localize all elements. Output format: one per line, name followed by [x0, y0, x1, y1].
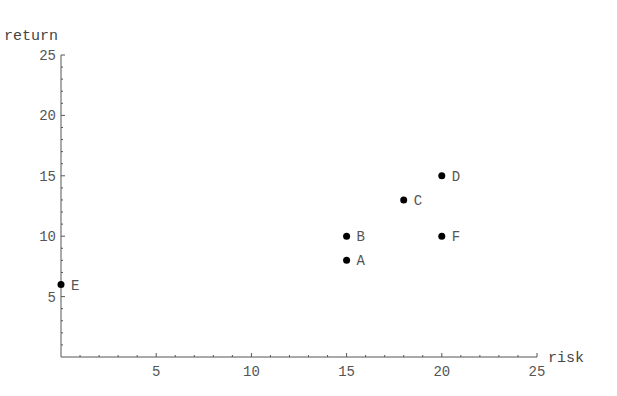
point-marker-icon [343, 257, 350, 264]
point-marker-icon [400, 196, 407, 203]
y-tick-label: 20 [39, 108, 56, 124]
point-label: E [71, 278, 79, 294]
x-axis-label: risk [548, 350, 584, 367]
point-label: A [357, 253, 366, 269]
data-point-d: D [438, 169, 460, 185]
y-tick-label: 15 [39, 169, 56, 185]
x-tick-label: 25 [529, 364, 546, 380]
x-tick-label: 5 [152, 364, 160, 380]
data-point-a: A [343, 253, 366, 269]
data-point-b: B [343, 229, 365, 245]
point-label: C [414, 193, 422, 209]
y-axis-label: return [4, 28, 58, 45]
y-tick-label: 5 [48, 290, 56, 306]
x-tick-label: 10 [243, 364, 260, 380]
point-marker-icon [343, 233, 350, 240]
x-tick-label: 15 [338, 364, 355, 380]
axes: 510152025510152025 [39, 48, 545, 380]
data-points: ABCDEF [58, 169, 461, 294]
y-tick-label: 10 [39, 229, 56, 245]
point-label: D [452, 169, 460, 185]
data-point-c: C [400, 193, 422, 209]
y-tick-label: 25 [39, 48, 56, 64]
point-marker-icon [438, 233, 445, 240]
point-marker-icon [438, 172, 445, 179]
point-label: B [357, 229, 365, 245]
point-marker-icon [58, 281, 65, 288]
data-point-f: F [438, 229, 460, 245]
x-tick-label: 20 [433, 364, 450, 380]
scatter-chart: 510152025510152025 ABCDEF risk return [0, 0, 617, 396]
point-label: F [452, 229, 460, 245]
